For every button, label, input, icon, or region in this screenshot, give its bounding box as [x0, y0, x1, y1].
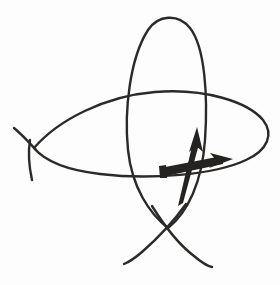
sketch-canvas [0, 0, 280, 285]
right-arrow-tail-cap [159, 165, 167, 178]
sketch-drawing [0, 0, 280, 285]
